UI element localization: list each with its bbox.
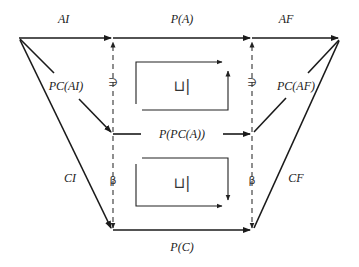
label-ni-left: ∋ [108, 76, 118, 89]
label-pc-ai: PC(AI) [48, 79, 84, 93]
label-pa: P(A) [170, 12, 194, 26]
label-pc-af: PC(AF) [276, 79, 315, 93]
label-beta-right: β [248, 174, 255, 187]
label-pc: P(C) [169, 240, 193, 254]
left-diagonals [20, 39, 111, 228]
label-cf: CF [288, 171, 304, 185]
upper-box-symbol: ⊔| [174, 77, 191, 95]
label-ci: CI [64, 171, 77, 185]
label-ai: AI [57, 12, 70, 26]
label-beta-left: β [109, 174, 116, 187]
label-p-pc-a: P(PC(A)) [158, 127, 205, 141]
label-af: AF [278, 12, 294, 26]
label-ni-right: ∋ [247, 76, 257, 89]
lower-box-symbol: ⊔| [174, 174, 191, 192]
diagram-canvas: AI P(A) AF PC(AI) PC(AF) P(PC(A)) CI CF … [0, 0, 359, 267]
right-diagonals [254, 40, 339, 228]
